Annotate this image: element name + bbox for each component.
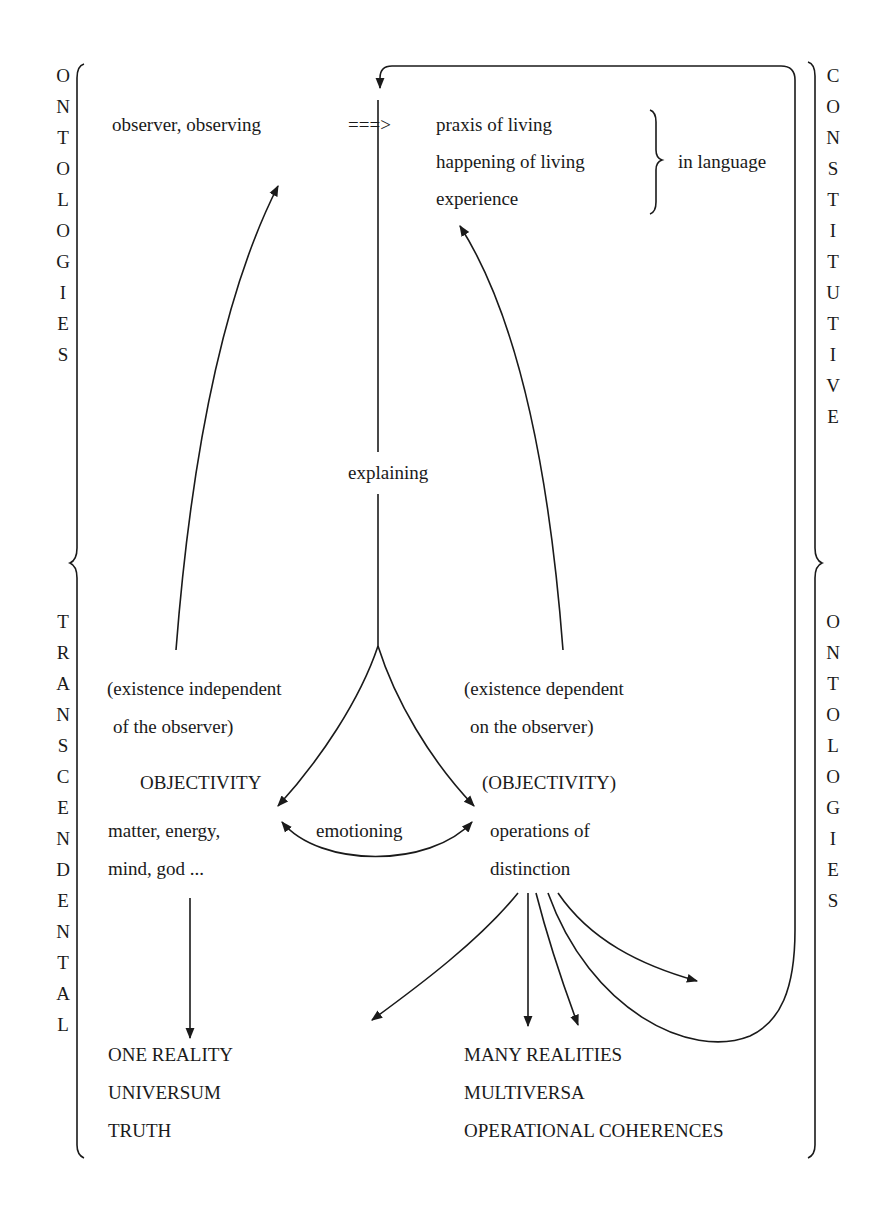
letter: T	[822, 184, 844, 215]
letter: V	[822, 370, 844, 401]
letter: S	[52, 339, 74, 370]
letter: O	[822, 761, 844, 792]
letter: L	[822, 730, 844, 761]
letter: T	[822, 246, 844, 277]
letter: E	[822, 401, 844, 432]
explaining-label: explaining	[348, 462, 428, 484]
happening-label: happening of living	[436, 151, 585, 173]
letter: T	[822, 308, 844, 339]
operational-coherences-label: OPERATIONAL COHERENCES	[464, 1120, 724, 1142]
letter: O	[822, 699, 844, 730]
operations-line1: operations of	[490, 820, 590, 842]
arrow-to-experience	[460, 226, 563, 650]
letter: T	[822, 668, 844, 699]
letter: E	[52, 308, 74, 339]
letter: I	[822, 215, 844, 246]
in-language-brace	[650, 110, 662, 214]
letter: O	[52, 60, 74, 91]
matter-energy-line2: mind, god ...	[108, 858, 204, 880]
right-constitutive-label: C O N S T I T U T I V E	[822, 60, 844, 432]
diagram-connectors	[0, 0, 878, 1214]
letter: R	[52, 637, 74, 668]
matter-energy-line1: matter, energy,	[108, 820, 220, 842]
existence-independent-line2: of the observer)	[113, 716, 233, 738]
universum-label: UNIVERSUM	[108, 1082, 221, 1104]
letter: O	[52, 215, 74, 246]
letter: A	[52, 978, 74, 1009]
arrow-to-observer	[176, 186, 278, 650]
praxis-label: praxis of living	[436, 114, 552, 136]
letter: N	[822, 122, 844, 153]
letter: S	[822, 153, 844, 184]
letter: S	[52, 730, 74, 761]
one-reality-label: ONE REALITY	[108, 1044, 233, 1066]
letter: S	[822, 885, 844, 916]
letter: D	[52, 854, 74, 885]
letter: L	[52, 184, 74, 215]
letter: N	[822, 637, 844, 668]
letter: I	[52, 277, 74, 308]
letter: A	[52, 668, 74, 699]
letter: U	[822, 277, 844, 308]
letter: L	[52, 1009, 74, 1040]
right-ontologies-label: O N T O L O G I E S	[822, 606, 844, 916]
existence-independent-line1: (existence independent	[107, 678, 282, 700]
fork-left	[278, 646, 378, 806]
fan-arrow-1	[372, 893, 518, 1020]
letter: N	[52, 823, 74, 854]
objectivity-label: OBJECTIVITY	[140, 772, 261, 794]
letter: N	[52, 699, 74, 730]
feedback-loop	[380, 66, 795, 1042]
truth-label: TRUTH	[108, 1120, 171, 1142]
letter: E	[822, 854, 844, 885]
operations-line2: distinction	[490, 858, 570, 880]
multiversa-label: MULTIVERSA	[464, 1082, 585, 1104]
letter: T	[52, 947, 74, 978]
existence-dependent-line2: on the observer)	[470, 716, 593, 738]
letter: G	[822, 792, 844, 823]
fan-arrow-4	[558, 893, 697, 981]
existence-dependent-line1: (existence dependent	[464, 678, 624, 700]
letter: C	[52, 761, 74, 792]
observer-label: observer, observing	[112, 114, 261, 136]
left-transcendental-label: T R A N S C E N D E N T A L	[52, 606, 74, 1040]
letter: T	[52, 122, 74, 153]
many-realities-label: MANY REALITIES	[464, 1044, 622, 1066]
letter: O	[52, 153, 74, 184]
letter: I	[822, 823, 844, 854]
letter: O	[822, 91, 844, 122]
letter: N	[52, 916, 74, 947]
left-ontologies-label: O N T O L O G I E S	[52, 60, 74, 370]
letter: C	[822, 60, 844, 91]
letter: E	[52, 792, 74, 823]
ontologies-diagram: O N T O L O G I E S T R A N S C E N D E …	[0, 0, 878, 1214]
emotioning-label: emotioning	[316, 820, 403, 842]
objectivity-parenthesized-label: (OBJECTIVITY)	[482, 772, 616, 794]
letter: E	[52, 885, 74, 916]
in-language-label: in language	[678, 151, 766, 173]
letter: G	[52, 246, 74, 277]
fork-right	[378, 646, 474, 806]
letter: N	[52, 91, 74, 122]
letter: T	[52, 606, 74, 637]
letter: I	[822, 339, 844, 370]
experience-label: experience	[436, 188, 518, 210]
implies-arrow: ===>	[348, 114, 391, 136]
fan-arrow-3	[536, 893, 578, 1025]
right-brace	[808, 62, 822, 1158]
letter: O	[822, 606, 844, 637]
